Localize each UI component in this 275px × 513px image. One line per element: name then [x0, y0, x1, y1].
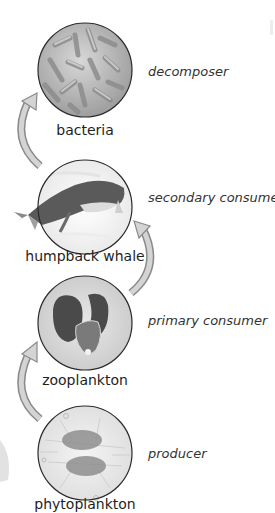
role-label-decomposer: decomposer [148, 64, 228, 79]
role-label-producer: producer [148, 446, 207, 461]
whale-icon [14, 160, 132, 254]
zooplankton-icon [38, 276, 132, 370]
role-label-primary-consumer: primary consumer [148, 313, 267, 328]
phytoplankton-icon [38, 406, 132, 501]
food-chain-diagram: bacteria humpback whale zooplankton phyt… [0, 0, 275, 513]
organism-label-bacteria: bacteria [5, 122, 165, 138]
bacteria-icon [38, 23, 132, 117]
background-shape [0, 440, 9, 482]
organism-label-whale: humpback whale [5, 248, 165, 264]
organism-label-zooplankton: zooplankton [5, 372, 165, 388]
role-label-secondary-consumer: secondary consumer [148, 190, 275, 205]
organism-label-phytoplankton: phytoplankton [5, 496, 165, 512]
